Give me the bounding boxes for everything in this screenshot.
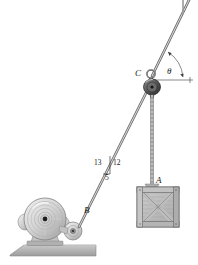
label-point-b: B xyxy=(84,205,90,215)
figure-canvas: C A B θ 13 12 5 xyxy=(0,0,198,265)
label-slope-hypotenuse: 13 xyxy=(94,158,102,167)
ground-wedge xyxy=(10,245,96,256)
label-point-c: C xyxy=(135,68,142,78)
upper-cable xyxy=(152,0,190,76)
crate-a xyxy=(137,187,179,227)
label-slope-vertical: 12 xyxy=(113,158,121,167)
winch-drum xyxy=(18,198,70,240)
label-point-a: A xyxy=(155,175,162,185)
label-angle-theta: θ xyxy=(167,66,172,76)
statics-figure: C A B θ 13 12 5 xyxy=(0,0,198,265)
label-slope-horizontal: 5 xyxy=(105,173,109,182)
